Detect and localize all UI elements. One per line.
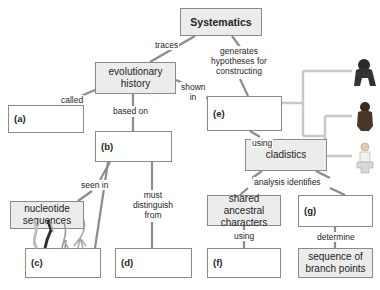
- systematics-node: Systematics: [180, 8, 262, 36]
- link-using-f: using: [233, 231, 255, 241]
- human-icon: [354, 142, 376, 174]
- link-called: called: [60, 95, 84, 105]
- link-determine: determine: [316, 232, 356, 242]
- homologous-limbs-icon: [28, 218, 98, 250]
- link-must-distinguish: must distinguish from: [128, 190, 178, 220]
- evolutionary-history-node: evolutionary history: [95, 62, 176, 94]
- blank-d-node[interactable]: (d): [115, 248, 192, 278]
- link-shown-in: shown in: [180, 82, 206, 102]
- link-based-on: based on: [112, 106, 149, 116]
- sequence-of-branch-points-node: sequence of branch points: [298, 248, 373, 278]
- blank-b-node[interactable]: (b): [95, 131, 172, 162]
- shared-ancestral-characters-node: shared ancestral characters: [207, 195, 281, 226]
- link-using-e: using: [251, 138, 273, 148]
- gorilla-icon: [352, 56, 378, 88]
- blank-c-node[interactable]: (c): [25, 248, 101, 278]
- link-traces: traces: [154, 40, 179, 50]
- blank-e-node[interactable]: (e): [207, 96, 282, 131]
- link-analysis-identifies: analysis identifies: [253, 177, 322, 187]
- link-generates: generates hypotheses for constructing: [206, 46, 272, 76]
- blank-f-node[interactable]: (f): [207, 248, 281, 278]
- blank-g-node[interactable]: (g): [298, 195, 373, 227]
- chimpanzee-icon: [354, 100, 376, 132]
- blank-a-node[interactable]: (a): [8, 105, 84, 133]
- link-seen-in: seen in: [80, 180, 109, 190]
